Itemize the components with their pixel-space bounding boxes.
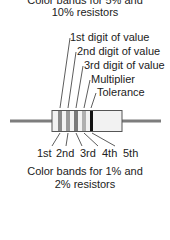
callout-1st-digit: 1st digit of value bbox=[70, 31, 150, 43]
band-label-2nd: 2nd bbox=[56, 147, 74, 159]
bottom-caption-line1: Color bands for 1% and bbox=[0, 165, 170, 177]
callout-tolerance: Tolerance bbox=[97, 86, 145, 98]
bottom-caption-line2: 2% resistors bbox=[0, 178, 170, 190]
band-label-3rd: 3rd bbox=[80, 147, 96, 159]
callout-2nd-digit: 2nd digit of value bbox=[77, 45, 160, 57]
resistor-body bbox=[52, 111, 122, 132]
band-label-5th: 5th bbox=[123, 147, 138, 159]
band-1 bbox=[58, 111, 62, 131]
callout-multiplier: Multiplier bbox=[91, 73, 135, 85]
band-4 bbox=[82, 111, 86, 131]
band-2 bbox=[66, 111, 70, 131]
bottom-leader-lines bbox=[52, 133, 115, 146]
band-label-4th: 4th bbox=[102, 147, 117, 159]
band-3 bbox=[74, 111, 78, 131]
callout-3rd-digit: 3rd digit of value bbox=[84, 59, 165, 71]
band-5 bbox=[90, 111, 93, 131]
band-label-1st: 1st bbox=[37, 147, 52, 159]
